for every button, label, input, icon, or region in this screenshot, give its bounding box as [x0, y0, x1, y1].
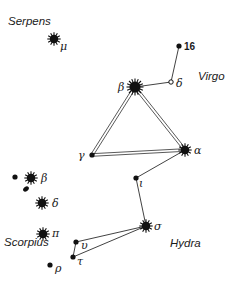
star-label-16: 16 [184, 41, 196, 52]
constellation-line [92, 151, 185, 156]
star-label-mu: μ [60, 40, 67, 53]
star-label-gamma: γ [78, 149, 85, 162]
constellation-line [134, 88, 184, 151]
star-label-alpha: α [194, 144, 202, 157]
star-label-upsilon: υ [81, 239, 88, 252]
constellation-line [136, 150, 185, 178]
star-label-beta-vir: β [117, 81, 124, 94]
star-beta-vir-icon [127, 79, 144, 96]
nebula-blob-icon [22, 185, 30, 192]
star-label-beta-sco: β [40, 172, 47, 185]
star-upsilon-icon [73, 239, 78, 244]
constellation-label-scorpius: Scorpius [4, 236, 49, 248]
constellation-line [136, 86, 186, 149]
star-rho-icon [47, 262, 52, 267]
star-b-dot-icon [12, 174, 17, 179]
star-alpha-icon [178, 143, 191, 156]
star-label-sigma: σ [154, 220, 162, 233]
star-mu-icon [47, 32, 60, 45]
constellation-line [91, 86, 134, 154]
star-sigma-icon [139, 219, 152, 232]
labels: μ16δβγαισυτβδπρSerpensVirgoScorpiusHydra [4, 15, 225, 275]
star-beta-sco-icon [24, 171, 37, 184]
star-label-delta-sco: δ [52, 197, 59, 210]
star-16-icon [176, 43, 181, 48]
star-label-tau: τ [77, 255, 84, 268]
star-delta-vir-icon [169, 80, 173, 84]
star-chart: μ16δβγαισυτβδπρSerpensVirgoScorpiusHydra [0, 0, 235, 284]
constellation-line [92, 149, 185, 154]
star-delta-sco-icon [35, 196, 48, 209]
star-tau-icon [70, 254, 75, 259]
star-label-rho: ρ [54, 262, 62, 275]
star-label-pi: π [51, 227, 60, 240]
constellation-label-hydra: Hydra [170, 237, 201, 249]
constellation-lines [73, 46, 186, 257]
constellation-label-serpens: Serpens [8, 15, 51, 27]
star-label-iota: ι [139, 177, 143, 190]
star-gamma-icon [89, 152, 94, 157]
star-iota-icon [133, 175, 138, 180]
constellation-line [93, 88, 136, 156]
star-label-delta-vir: δ [176, 77, 183, 90]
constellation-label-virgo: Virgo [198, 70, 225, 82]
